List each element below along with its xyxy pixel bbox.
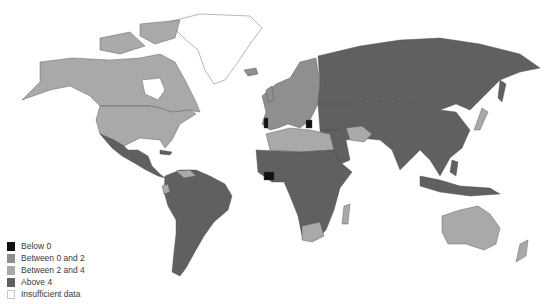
- region-south-america: [164, 170, 232, 276]
- region-canada-islands: [100, 32, 145, 54]
- region-russia: [318, 38, 540, 110]
- legend-item-between-0-2: Between 0 and 2: [7, 252, 85, 264]
- legend-item-between-2-4: Between 2 and 4: [7, 264, 85, 276]
- region-canada-alaska: [22, 54, 200, 114]
- legend-swatch-between-0-2: [7, 254, 15, 263]
- map-legend: Below 0 Between 0 and 2 Between 2 and 4 …: [7, 240, 85, 300]
- region-iceland: [244, 68, 258, 76]
- region-portugal: [264, 118, 268, 128]
- legend-swatch-between-2-4: [7, 266, 15, 275]
- region-kamchatka: [498, 80, 506, 102]
- legend-label: Insufficient data: [21, 289, 80, 299]
- legend-label: Above 4: [21, 277, 52, 287]
- legend-label: Between 2 and 4: [21, 265, 85, 275]
- legend-label: Between 0 and 2: [21, 253, 85, 263]
- region-caribbean: [160, 150, 172, 155]
- region-cote-divoire: [264, 172, 274, 180]
- legend-item-below-0: Below 0: [7, 240, 85, 252]
- region-japan: [474, 108, 488, 130]
- legend-swatch-below-0: [7, 242, 15, 251]
- region-southeast-asia: [420, 176, 500, 196]
- legend-label: Below 0: [21, 241, 51, 251]
- region-new-zealand: [516, 240, 528, 262]
- region-greece: [306, 120, 312, 128]
- region-canada-arctic: [140, 20, 180, 44]
- legend-swatch-insufficient-data: [7, 290, 15, 299]
- legend-swatch-above-4: [7, 278, 15, 287]
- region-australia: [442, 206, 500, 250]
- legend-item-above-4: Above 4: [7, 276, 85, 288]
- legend-item-insufficient-data: Insufficient data: [7, 288, 85, 300]
- region-philippines: [450, 160, 458, 176]
- region-madagascar: [342, 204, 350, 224]
